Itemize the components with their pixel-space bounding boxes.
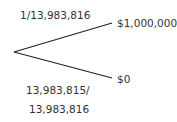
- win-probability-label: 1/13,983,816: [20, 10, 90, 21]
- branch-win-line: [14, 23, 112, 52]
- lose-probability-denominator: 13,983,816: [29, 104, 89, 115]
- win-outcome-label: $1,000,000: [117, 18, 177, 29]
- lose-outcome-label: $0: [117, 74, 130, 85]
- branch-lose-line: [14, 52, 112, 78]
- lose-probability-numerator: 13,983,815/: [26, 85, 90, 96]
